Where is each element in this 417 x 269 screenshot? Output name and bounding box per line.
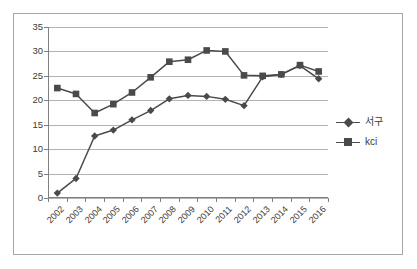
y-tick-mark-25 (44, 76, 49, 77)
x-tick-mark-6 (160, 198, 161, 202)
x-tick-mark-15 (328, 198, 329, 202)
gridline-0 (48, 198, 328, 199)
gridline-15 (48, 125, 328, 126)
y-tick-label-15: 15 (15, 120, 43, 130)
y-tick-mark-15 (44, 125, 49, 126)
gridline-5 (48, 174, 328, 175)
chart-legend: 서구 kci (336, 112, 398, 152)
x-tick-mark-10 (235, 198, 236, 202)
y-tick-label-25: 25 (15, 71, 43, 81)
legend-label-seogu: 서구 (365, 116, 383, 128)
x-tick-mark-1 (67, 198, 68, 202)
x-tick-mark-3 (104, 198, 105, 202)
legend-item-seogu[interactable]: 서구 (336, 112, 398, 132)
x-tick-mark-4 (123, 198, 124, 202)
legend-item-kci[interactable]: kci (336, 132, 398, 152)
legend-marker-diamond-icon (336, 116, 360, 128)
x-tick-mark-12 (272, 198, 273, 202)
x-tick-mark-14 (309, 198, 310, 202)
y-tick-label-10: 10 (15, 144, 43, 154)
y-axis-line (48, 27, 49, 198)
gridline-35 (48, 27, 328, 28)
gridline-30 (48, 51, 328, 52)
x-tick-mark-2 (85, 198, 86, 202)
y-tick-mark-5 (44, 174, 49, 175)
x-tick-mark-7 (179, 198, 180, 202)
x-tick-mark-5 (141, 198, 142, 202)
y-tick-label-5: 5 (15, 169, 43, 179)
y-tick-mark-20 (44, 100, 49, 101)
legend-marker-square-icon (336, 136, 360, 148)
y-tick-label-0: 0 (15, 193, 43, 203)
chart-container: 05101520253035 2002200320042005200620072… (0, 0, 417, 269)
x-axis-line (48, 197, 328, 198)
gridline-25 (48, 76, 328, 77)
x-tick-mark-8 (197, 198, 198, 202)
y-tick-label-20: 20 (15, 95, 43, 105)
x-tick-mark-13 (291, 198, 292, 202)
x-tick-mark-11 (253, 198, 254, 202)
legend-label-kci: kci (365, 136, 377, 148)
gridline-20 (48, 100, 328, 101)
x-tick-mark-9 (216, 198, 217, 202)
x-tick-mark-0 (48, 198, 49, 202)
y-axis-tick-labels: 05101520253035 (10, 0, 43, 269)
y-tick-label-30: 30 (15, 46, 43, 56)
y-tick-label-35: 35 (15, 22, 43, 32)
y-tick-mark-35 (44, 27, 49, 28)
gridline-10 (48, 149, 328, 150)
y-tick-mark-30 (44, 51, 49, 52)
y-tick-mark-10 (44, 149, 49, 150)
